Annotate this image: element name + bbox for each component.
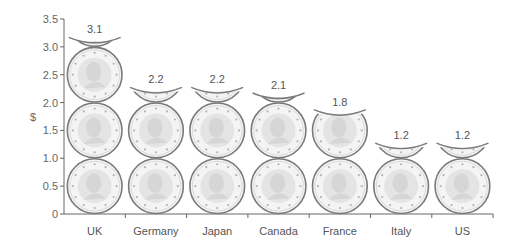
value-label: 1.2 <box>455 129 470 141</box>
y-tick-label: 2.0 <box>43 97 58 109</box>
category-label: Canada <box>259 225 298 237</box>
coin-stack-us <box>435 103 490 213</box>
y-tick-label: 1.0 <box>43 152 58 164</box>
value-label: 2.2 <box>148 73 163 85</box>
y-axis: 00.51.01.52.02.53.03.5$ <box>30 13 64 220</box>
coin-stack-france <box>312 103 367 213</box>
value-label: 2.1 <box>271 79 286 91</box>
coin-stack-italy <box>374 103 429 213</box>
category-label: Germany <box>133 225 179 237</box>
category-label: UK <box>87 225 103 237</box>
value-label: 3.1 <box>87 23 102 35</box>
category-label: Italy <box>391 225 412 237</box>
y-axis-label: $ <box>30 111 36 123</box>
y-tick-label: 3.0 <box>43 41 58 53</box>
y-tick-label: 3.5 <box>43 13 58 25</box>
coin-pictograph-chart: 00.51.01.52.02.53.03.5$ UKGermanyJapanCa… <box>0 0 517 251</box>
value-label: 1.2 <box>394 129 409 141</box>
category-label: Japan <box>202 225 232 237</box>
coin-stack-germany <box>129 47 184 213</box>
y-tick-label: 0.5 <box>43 180 58 192</box>
category-label: US <box>455 225 470 237</box>
x-axis: UKGermanyJapanCanadaFranceItalyUS <box>64 214 493 237</box>
coin-stacks <box>67 0 490 214</box>
y-tick-label: 0 <box>52 208 58 220</box>
value-label: 2.2 <box>210 73 225 85</box>
value-label: 1.8 <box>332 96 347 108</box>
coin-stack-canada <box>251 47 306 213</box>
category-label: France <box>323 225 357 237</box>
coin-stack-japan <box>190 47 245 213</box>
y-tick-label: 1.5 <box>43 124 58 136</box>
y-tick-label: 2.5 <box>43 69 58 81</box>
